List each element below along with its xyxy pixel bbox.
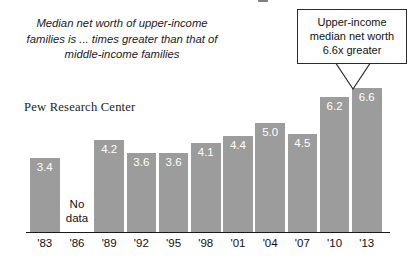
- no-data-line-1: No: [58, 198, 96, 212]
- bar-value-label: 3.6: [127, 157, 157, 169]
- x-axis-tick-label: '13: [347, 237, 387, 249]
- callout-line-1: Upper-income: [302, 15, 402, 29]
- bar-value-label: 3.4: [30, 162, 60, 174]
- bar-value-label: 5.0: [255, 127, 285, 139]
- bar-value-label: 4.1: [191, 147, 221, 159]
- callout-box: Upper-income median net worth 6.6x great…: [297, 9, 407, 64]
- bar-value-label: 6.6: [352, 92, 382, 104]
- bar-value-label: 3.6: [159, 157, 189, 169]
- chart-figure: Median net worth of upper-income familie…: [0, 0, 419, 263]
- no-data-note: Nodata: [58, 198, 96, 225]
- bar: [320, 97, 350, 232]
- callout-line-2: median net worth: [302, 29, 402, 43]
- bar: [352, 88, 382, 232]
- bar-value-label: 4.2: [94, 144, 124, 156]
- no-data-line-2: data: [58, 212, 96, 226]
- bar: [255, 123, 285, 232]
- bar-value-label: 4.5: [288, 138, 318, 150]
- bar-value-label: 4.4: [223, 140, 253, 152]
- callout-line-3: 6.6x greater: [302, 43, 402, 57]
- bar-value-label: 6.2: [320, 101, 350, 113]
- x-axis-line: [26, 232, 390, 233]
